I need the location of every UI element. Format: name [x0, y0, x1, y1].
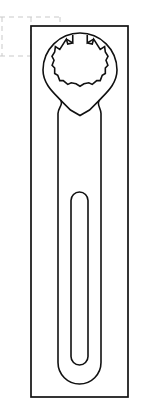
drawing-canvas: Box-End Wrench Technical Drawing [0, 0, 141, 419]
wrench-drawing [0, 0, 141, 419]
